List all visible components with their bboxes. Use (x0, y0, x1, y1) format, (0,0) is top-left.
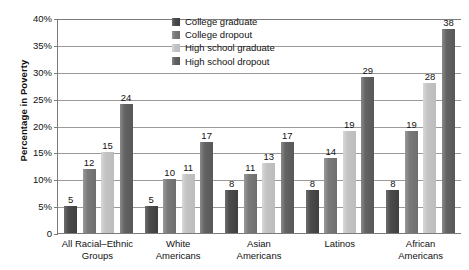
bar-value-label: 8 (390, 179, 395, 189)
y-axis-tick-mark (54, 153, 58, 154)
bar-container: 8 (386, 19, 399, 233)
bar[interactable]: 11 (182, 174, 195, 233)
bar-container: 19 (405, 19, 418, 233)
bar-value-label: 5 (148, 195, 153, 205)
bar[interactable]: 5 (145, 206, 158, 233)
y-axis-tick-label: 5% (0, 201, 52, 212)
y-axis-tick-label: 30% (0, 67, 52, 78)
poverty-by-education-bar-chart: Percentage in Poverty 40%35%30%25%20%15%… (0, 0, 469, 270)
legend-label: College graduate (185, 16, 257, 27)
bar[interactable]: 38 (442, 29, 455, 233)
bar-value-label: 29 (363, 66, 374, 76)
bar-value-label: 19 (406, 120, 417, 130)
bar[interactable]: 10 (163, 179, 176, 233)
bar-group: 8141929 (300, 19, 381, 233)
legend-item[interactable]: High school dropout (172, 56, 275, 67)
legend-item[interactable]: High school graduate (172, 42, 275, 53)
bar[interactable]: 12 (83, 169, 96, 234)
bar[interactable]: 8 (386, 190, 399, 233)
bar-container: 8 (306, 19, 319, 233)
bar[interactable]: 19 (405, 131, 418, 233)
bar-value-label: 10 (164, 168, 175, 178)
bar[interactable]: 29 (361, 77, 374, 233)
legend-swatch-icon (172, 18, 180, 26)
bar-value-label: 15 (102, 141, 113, 151)
legend-label: College dropout (185, 29, 252, 40)
bar-container: 5 (145, 19, 158, 233)
bar[interactable]: 24 (120, 104, 133, 233)
bar[interactable]: 5 (64, 206, 77, 233)
bar-value-label: 14 (326, 147, 337, 157)
bar[interactable]: 15 (101, 152, 114, 233)
y-axis-tick-label: 25% (0, 94, 52, 105)
bar[interactable]: 14 (324, 158, 337, 233)
y-axis-title: Percentage in Poverty (18, 26, 29, 196)
legend-swatch-icon (172, 57, 180, 65)
bar[interactable]: 11 (244, 174, 257, 233)
bar-value-label: 8 (310, 179, 315, 189)
bar-container: 14 (324, 19, 337, 233)
y-axis-tick-mark (54, 180, 58, 181)
y-axis-tick-mark (54, 127, 58, 128)
legend-item[interactable]: College dropout (172, 29, 275, 40)
x-axis-label: All Racial–EthnicGroups (57, 238, 138, 261)
legend-label: High school dropout (185, 56, 270, 67)
x-axis-label: AsianAmericans (219, 238, 300, 261)
bar-value-label: 11 (245, 163, 255, 173)
bar-container: 12 (83, 19, 96, 233)
x-axis-category-labels: All Racial–EthnicGroupsWhiteAmericansAsi… (57, 238, 461, 261)
bar-value-label: 28 (425, 72, 436, 82)
bar-value-label: 17 (282, 131, 293, 141)
y-axis-tick-mark (54, 19, 58, 20)
legend-label: High school graduate (185, 42, 275, 53)
y-axis-tick-mark (54, 73, 58, 74)
y-axis-tick-mark (54, 207, 58, 208)
bar-container: 24 (120, 19, 133, 233)
bar-value-label: 12 (84, 158, 95, 168)
y-axis-tick-label: 10% (0, 174, 52, 185)
bar[interactable]: 8 (306, 190, 319, 233)
bar[interactable]: 28 (423, 83, 436, 234)
bar-container: 15 (101, 19, 114, 233)
legend-swatch-icon (172, 31, 180, 39)
x-axis-label: AfricanAmericans (380, 238, 461, 261)
bar-value-label: 5 (68, 195, 73, 205)
bar-container: 38 (442, 19, 455, 233)
bar[interactable]: 17 (200, 142, 213, 233)
y-axis-tick-label: 40% (0, 13, 52, 24)
bar-container: 29 (361, 19, 374, 233)
bar-value-label: 38 (443, 18, 454, 28)
legend-item[interactable]: College graduate (172, 16, 275, 27)
bar-value-label: 11 (183, 163, 193, 173)
bar[interactable]: 17 (281, 142, 294, 233)
y-axis-tick-label: 0 (0, 228, 52, 239)
bar-container: 28 (423, 19, 436, 233)
bar[interactable]: 13 (262, 163, 275, 233)
y-axis-tick-mark (54, 46, 58, 47)
bar-value-label: 24 (121, 93, 132, 103)
y-axis-tick-label: 20% (0, 121, 52, 132)
y-axis-tick-label: 15% (0, 147, 52, 158)
bar[interactable]: 19 (343, 131, 356, 233)
bar-group: 5121524 (58, 19, 139, 233)
bar-value-label: 17 (201, 131, 212, 141)
y-axis-tick-label: 35% (0, 40, 52, 51)
bar-value-label: 13 (263, 152, 274, 162)
y-axis-tick-mark (54, 234, 58, 235)
legend-swatch-icon (172, 44, 180, 52)
bar-group: 8192838 (380, 19, 461, 233)
bar[interactable]: 8 (225, 190, 238, 233)
x-axis-label: WhiteAmericans (138, 238, 219, 261)
legend: College graduateCollege dropoutHigh scho… (172, 16, 275, 67)
bar-value-label: 19 (344, 120, 355, 130)
y-axis-tick-mark (54, 100, 58, 101)
x-axis-label: Latinos (299, 238, 380, 261)
bar-value-label: 8 (229, 179, 234, 189)
bar-container: 5 (64, 19, 77, 233)
bar-container: 19 (343, 19, 356, 233)
bar-container: 17 (281, 19, 294, 233)
